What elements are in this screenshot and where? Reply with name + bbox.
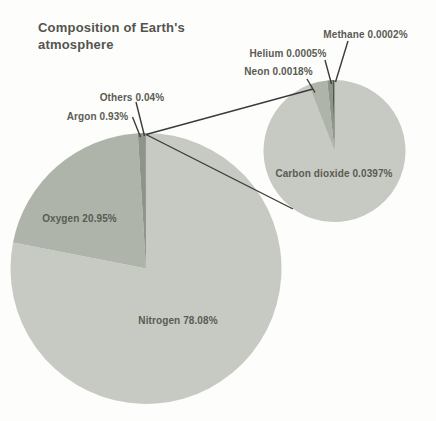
others-label: Others 0.04% [100,92,165,103]
main-pie [11,133,282,404]
nitrogen-label: Nitrogen 78.08% [138,315,217,326]
carbon-dioxide-label: Carbon dioxide 0.0397% [275,168,392,179]
methane-leader-line [336,41,349,82]
others-breakdown-pie [263,80,405,222]
argon-label: Argon 0.93% [67,111,129,122]
pie-chart-canvas: Nitrogen 78.08% Oxygen 20.95% Argon 0.93… [0,0,436,421]
others-leader-line [136,102,145,136]
helium-label: Helium 0.0005% [250,48,327,59]
neon-label: Neon 0.0018% [244,66,312,77]
oxygen-label: Oxygen 20.95% [42,213,117,224]
atmosphere-composition-chart: Composition of Earth's atmosphere Nitrog… [0,0,436,421]
methane-label: Methane 0.0002% [323,29,407,40]
